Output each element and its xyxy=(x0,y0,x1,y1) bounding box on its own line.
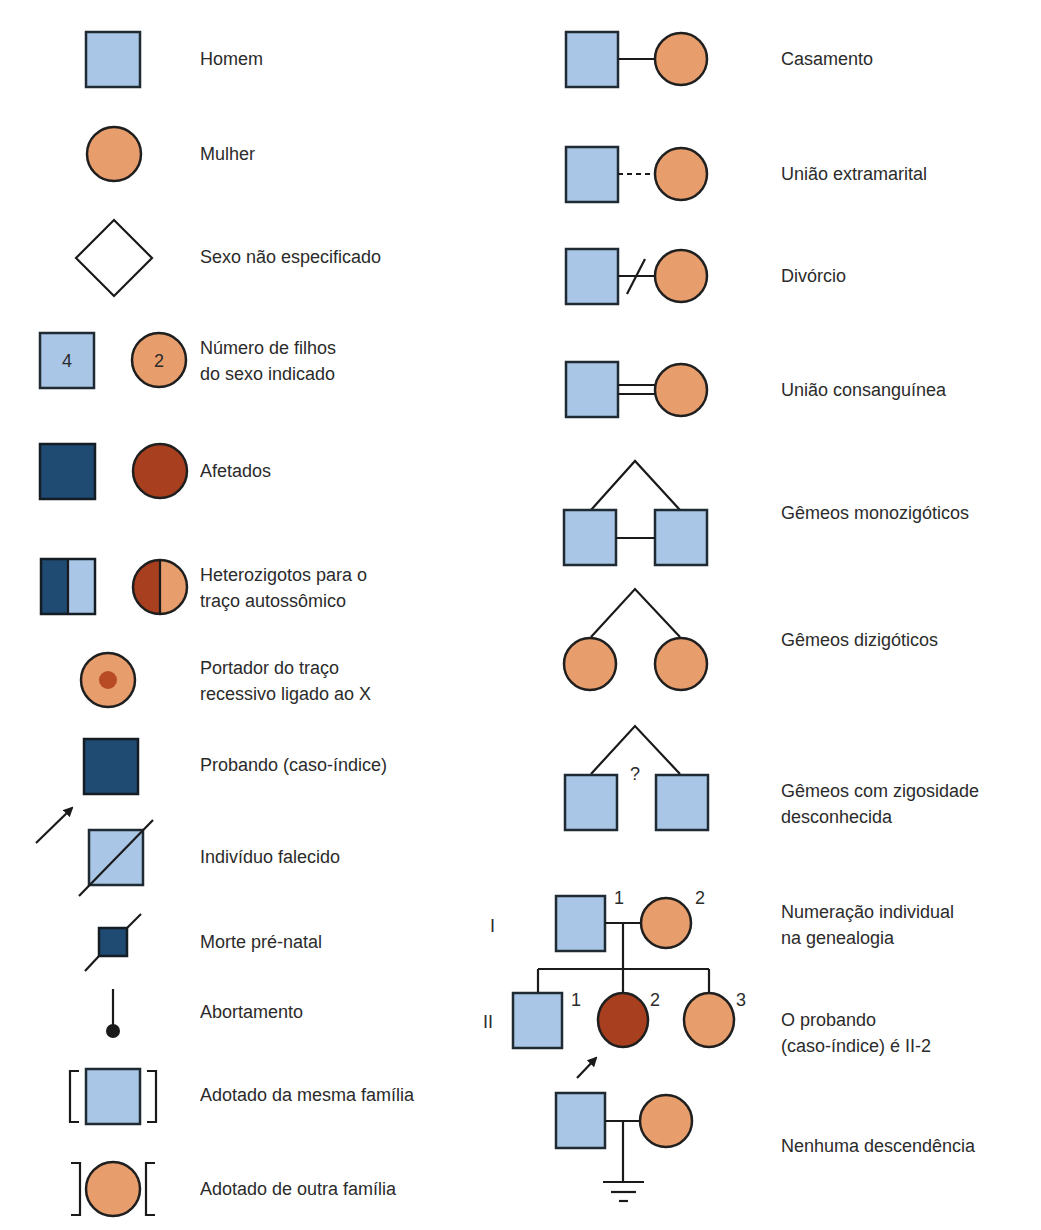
label-numeracao-individual: Numeração individualna genealogia xyxy=(781,899,954,951)
individual-number: 2 xyxy=(650,990,660,1010)
label-homem: Homem xyxy=(200,46,263,72)
label-sexo-nao-especificado: Sexo não especificado xyxy=(200,244,381,270)
x-linked-carrier-symbol xyxy=(81,653,135,707)
question-mark-text: ? xyxy=(630,764,640,784)
affected-symbols xyxy=(40,444,187,499)
label-mulher: Mulher xyxy=(200,141,255,167)
individual-number: 3 xyxy=(736,990,746,1010)
dizygotic-twins-symbol xyxy=(564,589,707,690)
individual-number: 1 xyxy=(614,888,624,908)
label-probando: Probando (caso-índice) xyxy=(200,752,387,778)
individual-number: 2 xyxy=(695,888,705,908)
number-of-children-symbols: 4 2 xyxy=(40,333,186,388)
label-afetados: Afetados xyxy=(200,458,271,484)
monozygotic-twins-symbol xyxy=(564,461,707,565)
label-uniao-extramarital: União extramarital xyxy=(781,161,927,187)
label-morte-pre-natal: Morte pré-natal xyxy=(200,929,322,955)
male-symbol xyxy=(86,32,140,87)
label-numero-de-filhos: Número de filhosdo sexo indicado xyxy=(200,335,336,387)
no-offspring-symbol xyxy=(556,1093,692,1201)
female-symbol xyxy=(87,127,141,181)
label-uniao-consanguinea: União consanguínea xyxy=(781,377,946,403)
adopted-same-family-symbol xyxy=(70,1069,156,1124)
pedigree-numbering-example: I 1 2 II 1 2 3 xyxy=(483,888,746,1078)
prenatal-death-symbol xyxy=(85,914,141,971)
unknown-zygosity-twins-symbol: ? xyxy=(565,726,708,830)
adopted-other-family-symbol xyxy=(71,1162,155,1216)
label-probando-ii2: O probando(caso-índice) é II-2 xyxy=(781,1007,931,1059)
individual-number: 1 xyxy=(571,990,581,1010)
label-adotado-outra-familia: Adotado de outra família xyxy=(200,1176,396,1202)
male-count-text: 4 xyxy=(62,351,72,371)
label-casamento: Casamento xyxy=(781,46,873,72)
marriage-symbol xyxy=(566,32,707,87)
generation-i-label: I xyxy=(490,916,495,936)
label-abortamento: Abortamento xyxy=(200,999,303,1025)
unspecified-sex-symbol xyxy=(76,220,152,296)
generation-ii-label: II xyxy=(483,1012,493,1032)
label-adotado-mesma-familia: Adotado da mesma família xyxy=(200,1082,414,1108)
label-gemeos-monozigoticos: Gêmeos monozigóticos xyxy=(781,500,969,526)
label-gemeos-zigosidade-desconhecida: Gêmeos com zigosidadedesconhecida xyxy=(781,778,979,830)
label-heterozigotos: Heterozigotos para otraço autossômico xyxy=(200,562,367,614)
label-nenhuma-descendencia: Nenhuma descendência xyxy=(781,1133,975,1159)
abortion-symbol xyxy=(106,989,120,1038)
consanguineous-union-symbol xyxy=(566,362,707,417)
divorce-symbol xyxy=(566,249,707,304)
label-gemeos-dizigoticos: Gêmeos dizigóticos xyxy=(781,627,938,653)
label-falecido: Indivíduo falecido xyxy=(200,844,340,870)
label-divorcio: Divórcio xyxy=(781,263,846,289)
extramarital-union-symbol xyxy=(566,147,707,202)
proband-symbol xyxy=(36,739,138,843)
deceased-symbol xyxy=(79,820,153,896)
heterozygote-symbols xyxy=(41,559,187,614)
female-count-text: 2 xyxy=(154,351,164,371)
label-portador: Portador do traçorecessivo ligado ao X xyxy=(200,655,371,707)
